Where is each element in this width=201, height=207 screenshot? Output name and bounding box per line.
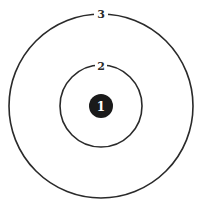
outer-ring-label: 3	[97, 8, 105, 21]
concentric-diagram: 3 2 1	[0, 0, 201, 207]
core-label: 1	[97, 100, 105, 114]
inner-ring-label: 2	[97, 60, 105, 73]
